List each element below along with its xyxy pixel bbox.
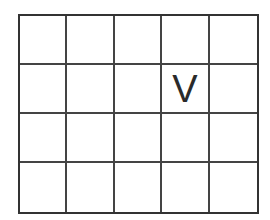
grid-cell-r2-c5[interactable] bbox=[210, 65, 257, 114]
grid-cell-r4-c4[interactable] bbox=[162, 163, 209, 212]
grid-cell-r1-c4[interactable] bbox=[162, 16, 209, 65]
grid-cell-r3-c5[interactable] bbox=[210, 114, 257, 163]
grid-cell-r4-c1[interactable] bbox=[20, 163, 67, 212]
grid-cell-r3-c1[interactable] bbox=[20, 114, 67, 163]
grid-cell-r1-c3[interactable] bbox=[115, 16, 162, 65]
grid-cell-r2-c4[interactable]: V bbox=[162, 65, 209, 114]
game-grid: V bbox=[18, 14, 259, 214]
grid-cell-r4-c3[interactable] bbox=[115, 163, 162, 212]
grid-cell-r1-c1[interactable] bbox=[20, 16, 67, 65]
grid-cell-r2-c1[interactable] bbox=[20, 65, 67, 114]
grid-cell-r2-c2[interactable] bbox=[67, 65, 114, 114]
grid-cell-r2-c3[interactable] bbox=[115, 65, 162, 114]
grid-cell-r1-c2[interactable] bbox=[67, 16, 114, 65]
grid-cell-r4-c5[interactable] bbox=[210, 163, 257, 212]
grid-cell-r3-c2[interactable] bbox=[67, 114, 114, 163]
grid-cell-r3-c4[interactable] bbox=[162, 114, 209, 163]
grid-cell-r4-c2[interactable] bbox=[67, 163, 114, 212]
grid-cell-r3-c3[interactable] bbox=[115, 114, 162, 163]
grid-cell-r1-c5[interactable] bbox=[210, 16, 257, 65]
